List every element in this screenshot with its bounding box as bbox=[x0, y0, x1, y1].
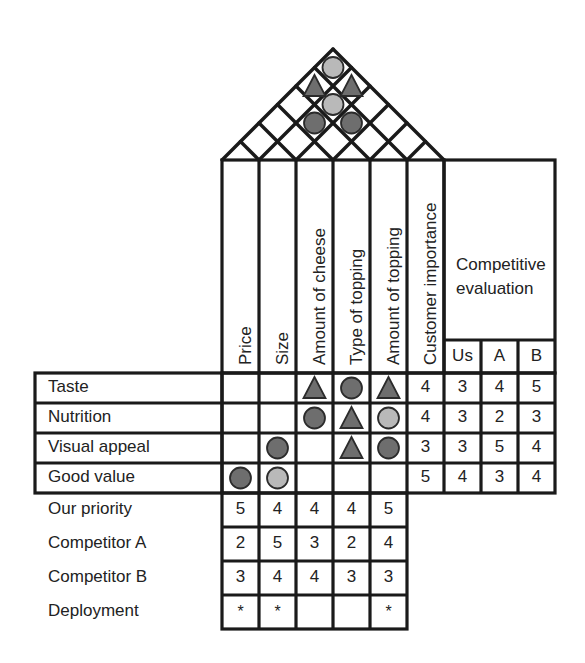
bottom-value-r1c4: 4 bbox=[347, 499, 356, 518]
competitive-value-r4c2: 3 bbox=[495, 467, 504, 486]
relationship-symbol-r2c3 bbox=[304, 408, 325, 429]
bottom-value-r2c5: 4 bbox=[384, 533, 393, 552]
relationship-symbol-r3c5 bbox=[378, 438, 399, 459]
column-header-type_topping: Type of topping bbox=[347, 249, 366, 365]
bottom-value-r1c2: 4 bbox=[273, 499, 282, 518]
relationship-symbol-r4c1 bbox=[230, 468, 251, 489]
bottom-value-r3c1: 3 bbox=[236, 567, 245, 586]
competitive-value-r1c2: 4 bbox=[495, 377, 504, 396]
roof-symbol-1 bbox=[323, 57, 344, 78]
roof-symbol-2 bbox=[304, 75, 326, 96]
bottom-value-r2c2: 5 bbox=[273, 533, 282, 552]
competitive-value-r2c1: 3 bbox=[458, 407, 467, 426]
bottom-row-label-2: Competitor A bbox=[48, 533, 147, 552]
relationship-symbol-r3c4 bbox=[341, 437, 363, 458]
relationship-symbol-r1c4 bbox=[341, 378, 362, 399]
competitive-value-r3c3: 4 bbox=[532, 437, 541, 456]
bottom-value-r2c4: 2 bbox=[347, 533, 356, 552]
relationship-symbol-r1c5 bbox=[378, 377, 400, 398]
bottom-row-label-4: Deployment bbox=[48, 601, 139, 620]
column-header-size: Size bbox=[273, 332, 292, 365]
bottom-value-r1c1: 5 bbox=[236, 499, 245, 518]
customer-importance-value-1: 4 bbox=[421, 377, 430, 396]
bottom-value-r4c1: * bbox=[237, 603, 243, 620]
roof-diagonal-down bbox=[241, 142, 260, 161]
roof-symbol-4 bbox=[323, 94, 344, 115]
bottom-row-label-3: Competitor B bbox=[48, 567, 147, 586]
bottom-row-label-1: Our priority bbox=[48, 499, 133, 518]
requirement-label-1: Taste bbox=[48, 377, 89, 396]
competitive-value-r2c2: 2 bbox=[495, 407, 504, 426]
column-header-price: Price bbox=[236, 326, 255, 365]
bottom-value-r3c2: 4 bbox=[273, 567, 282, 586]
bottom-value-r2c3: 3 bbox=[310, 533, 319, 552]
competitive-evaluation-title-line1: Competitive bbox=[456, 255, 546, 274]
bottom-value-r4c2: * bbox=[274, 603, 280, 620]
competitive-value-r4c3: 4 bbox=[532, 467, 541, 486]
requirement-label-3: Visual appeal bbox=[48, 437, 150, 456]
bottom-value-r1c5: 5 bbox=[384, 499, 393, 518]
technical-priorities-block: Our priority54445Competitor A25324Compet… bbox=[48, 493, 407, 629]
bottom-value-r2c1: 2 bbox=[236, 533, 245, 552]
relationship-matrix: Taste4345Nutrition4323Visual appeal3354G… bbox=[35, 373, 555, 493]
requirement-label-2: Nutrition bbox=[48, 407, 111, 426]
roof-symbol-6 bbox=[341, 113, 362, 134]
relationship-symbol-r2c4 bbox=[341, 407, 363, 428]
competitive-value-r2c3: 3 bbox=[532, 407, 541, 426]
relationship-symbol-r1c3 bbox=[304, 377, 326, 398]
customer-importance-value-2: 4 bbox=[421, 407, 430, 426]
house-of-quality-diagram: PriceSizeAmount of cheeseType of topping… bbox=[0, 0, 585, 663]
column-header-cheese: Amount of cheese bbox=[310, 228, 329, 365]
relationship-symbol-r3c2 bbox=[267, 438, 288, 459]
customer-importance-value-4: 5 bbox=[421, 467, 430, 486]
column-header-customer-importance: Customer importance bbox=[421, 202, 440, 365]
roof-symbol-3 bbox=[341, 75, 363, 96]
competitive-value-r3c1: 3 bbox=[458, 437, 467, 456]
bottom-value-r3c5: 3 bbox=[384, 567, 393, 586]
competitive-value-r3c2: 5 bbox=[495, 437, 504, 456]
competitive-column-header-b: B bbox=[531, 346, 542, 365]
roof-correlation-matrix bbox=[222, 49, 444, 160]
competitive-value-r1c1: 3 bbox=[458, 377, 467, 396]
customer-importance-value-3: 3 bbox=[421, 437, 430, 456]
bottom-value-r4c5: * bbox=[385, 603, 391, 620]
relationship-symbol-r4c2 bbox=[267, 468, 288, 489]
relationship-symbol-r2c5 bbox=[378, 408, 399, 429]
competitive-value-r1c3: 5 bbox=[532, 377, 541, 396]
column-header-block: PriceSizeAmount of cheeseType of topping… bbox=[222, 160, 555, 373]
bottom-value-r3c4: 3 bbox=[347, 567, 356, 586]
competitive-column-header-a: A bbox=[494, 346, 506, 365]
column-header-amount_topping: Amount of topping bbox=[384, 227, 403, 365]
requirement-label-4: Good value bbox=[48, 467, 135, 486]
bottom-value-r3c3: 4 bbox=[310, 567, 319, 586]
roof-symbol-5 bbox=[304, 113, 325, 134]
roof-diagonal-up bbox=[407, 142, 426, 161]
competitive-evaluation-title-line2: evaluation bbox=[456, 279, 534, 298]
bottom-value-r1c3: 4 bbox=[310, 499, 319, 518]
competitive-column-header-us: Us bbox=[452, 346, 473, 365]
competitive-value-r4c1: 4 bbox=[458, 467, 467, 486]
